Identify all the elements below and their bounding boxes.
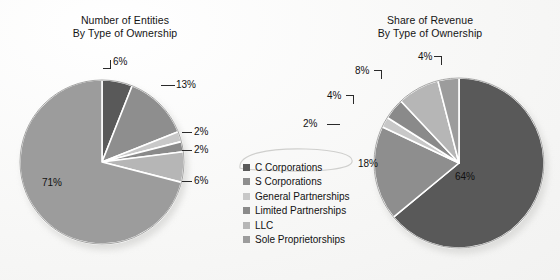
right-leader-sole-proprietorships-stem — [441, 56, 442, 65]
left-label-sole-proprietorships: 71% — [42, 178, 62, 188]
legend-swatch-general-partnerships — [243, 193, 250, 200]
figure-canvas: Number of Entities By Type of Ownership … — [0, 0, 560, 280]
left-chart-title-line2: By Type of Ownership — [0, 27, 250, 40]
right-label-c-corporations: 64% — [455, 172, 475, 182]
legend-label-c-corporations: C Corporations — [255, 162, 322, 173]
legend-item-s-corporations[interactable]: S Corporations — [243, 175, 365, 190]
left-label-c-corporations: 6% — [113, 57, 127, 67]
chart-number-of-entities: Number of Entities By Type of Ownership … — [0, 0, 250, 280]
right-label-limited-partnerships: 4% — [327, 91, 341, 101]
legend-label-sole-proprietorships: Sole Proprietorships — [255, 234, 345, 245]
left-leader-c-corporations-arm — [103, 68, 111, 69]
right-label-general-partnerships: 2% — [303, 119, 317, 129]
left-chart-title-line1: Number of Entities — [81, 14, 169, 26]
legend: C Corporations S Corporations General Pa… — [243, 160, 365, 247]
left-leader-llc — [182, 181, 192, 182]
right-leader-llc-stem — [381, 70, 382, 79]
right-chart-title-line1: Share of Revenue — [387, 14, 473, 26]
legend-label-llc: LLC — [255, 220, 273, 231]
legend-swatch-limited-partnerships — [243, 207, 250, 214]
legend-item-sole-proprietorships[interactable]: Sole Proprietorships — [243, 233, 365, 248]
legend-label-s-corporations: S Corporations — [255, 176, 322, 187]
legend-item-llc[interactable]: LLC — [243, 218, 365, 233]
left-pie — [19, 79, 185, 245]
legend-swatch-sole-proprietorships — [243, 236, 250, 243]
left-chart-title: Number of Entities By Type of Ownership — [0, 14, 250, 40]
right-pie — [373, 77, 545, 249]
legend-label-limited-partnerships: Limited Partnerships — [255, 205, 346, 216]
legend-item-general-partnerships[interactable]: General Partnerships — [243, 189, 365, 204]
right-leader-llc-arm — [374, 70, 382, 71]
right-label-sole-proprietorships: 4% — [418, 52, 432, 62]
right-leader-sole-proprietorships-arm — [434, 56, 442, 57]
right-leader-general-partnerships — [327, 124, 340, 125]
left-leader-s-corporations — [161, 85, 175, 86]
right-chart-title: Share of Revenue By Type of Ownership — [300, 14, 560, 40]
left-label-limited-partnerships: 2% — [194, 145, 208, 155]
left-label-s-corporations: 13% — [176, 80, 196, 90]
right-pie-graphic — [373, 77, 545, 249]
left-label-llc: 6% — [194, 176, 208, 186]
right-leader-limited-partnerships-stem — [353, 95, 354, 104]
left-label-general-partnerships: 2% — [194, 127, 208, 137]
legend-swatch-s-corporations — [243, 178, 250, 185]
left-pie-graphic — [19, 79, 185, 245]
right-label-llc: 8% — [355, 66, 369, 76]
left-leader-limited-partnerships — [182, 150, 192, 151]
right-leader-limited-partnerships-arm — [346, 95, 354, 96]
right-chart-title-line2: By Type of Ownership — [300, 27, 560, 40]
legend-item-c-corporations[interactable]: C Corporations — [243, 160, 365, 175]
legend-swatch-llc — [243, 222, 250, 229]
legend-swatch-c-corporations — [243, 164, 250, 171]
legend-label-general-partnerships: General Partnerships — [255, 191, 350, 202]
legend-item-limited-partnerships[interactable]: Limited Partnerships — [243, 204, 365, 219]
left-leader-general-partnerships — [182, 132, 192, 133]
